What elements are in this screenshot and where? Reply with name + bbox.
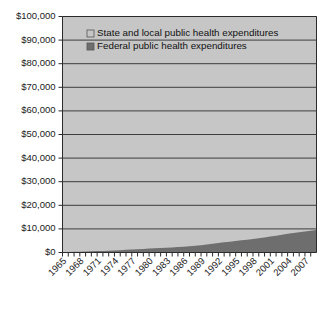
y-axis-label: $50,000 (21, 128, 55, 139)
legend-swatch-state-and-local (87, 30, 94, 37)
y-axis-label: $100,000 (16, 10, 56, 21)
x-axis-label: 1965 (46, 255, 69, 278)
x-axis-label: 1983 (150, 255, 173, 278)
x-axis-label: 1968 (63, 255, 86, 278)
x-axis-label: 2004 (271, 255, 294, 278)
public-health-expenditures-chart: $0$10,000$20,000$30,000$40,000$50,000$60… (0, 0, 326, 309)
y-axis-label: $10,000 (21, 222, 55, 233)
x-axis-label: 1986 (167, 255, 190, 278)
legend-swatch-federal (87, 43, 94, 50)
y-axis-label: $90,000 (21, 34, 55, 45)
x-axis-label: 1977 (115, 255, 138, 278)
x-axis-label: 1998 (236, 255, 259, 278)
legend-label-state-and-local: State and local public health expenditur… (97, 27, 278, 38)
x-axis-label: 1980 (132, 255, 155, 278)
x-axis-label: 2007 (288, 255, 311, 278)
x-axis-label: 1992 (202, 255, 225, 278)
y-axis-label: $70,000 (21, 81, 55, 92)
y-axis-label: $80,000 (21, 57, 55, 68)
chart-canvas: $0$10,000$20,000$30,000$40,000$50,000$60… (0, 0, 326, 309)
legend-label-federal: Federal public health expenditures (97, 40, 247, 51)
x-axis-label: 1974 (98, 255, 121, 278)
y-axis-label: $20,000 (21, 199, 55, 210)
x-axis-label: 1971 (80, 255, 103, 278)
x-axis-label: 1989 (184, 255, 207, 278)
y-axis-label: $0 (45, 246, 56, 257)
y-axis-label: $60,000 (21, 104, 55, 115)
x-axis-label: 2001 (254, 255, 277, 278)
y-axis-label: $40,000 (21, 152, 55, 163)
x-axis-label: 1995 (219, 255, 242, 278)
y-axis-label: $30,000 (21, 175, 55, 186)
